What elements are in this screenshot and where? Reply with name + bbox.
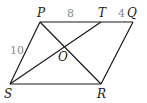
- label-P: P: [36, 6, 46, 20]
- label-T: T: [98, 6, 107, 20]
- segment-PR: [40, 22, 101, 84]
- label-S: S: [4, 87, 12, 101]
- measure-TQ: 4: [118, 7, 125, 20]
- label-R: R: [96, 87, 106, 101]
- measure-PT: 8: [67, 7, 74, 20]
- measure-PS: 10: [10, 44, 24, 57]
- label-Q: Q: [127, 6, 137, 20]
- label-O: O: [58, 50, 68, 64]
- segment-QR: [101, 22, 133, 84]
- parallelogram-diagram: P T Q S R O 8 4 10: [0, 0, 147, 103]
